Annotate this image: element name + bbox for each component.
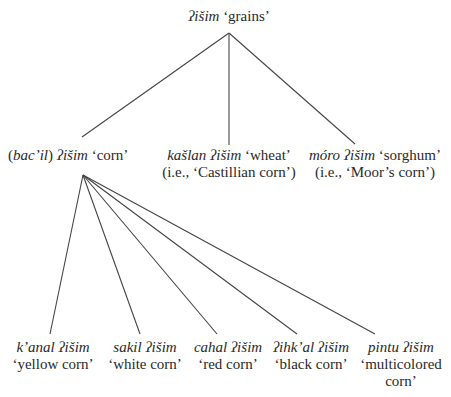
root-gloss: ‘grains’ — [223, 8, 270, 24]
edge-corn-multicolored — [83, 175, 375, 334]
node-wheat: kašlan ʔišim ‘wheat’ (i.e., ‘Castillian … — [150, 147, 308, 181]
corn-gloss: ‘corn’ — [92, 147, 129, 163]
edge-corn-white — [83, 175, 140, 334]
wheat-term-a: kašlan — [167, 147, 206, 163]
sorghum-term: ʔišim — [344, 147, 375, 163]
node-corn: (bac’il) ʔišim ‘corn’ — [8, 147, 158, 164]
multicolored-corn-gloss: ‘multicolored — [356, 356, 446, 373]
tree-edges — [0, 0, 451, 397]
root-term: ʔišim — [188, 8, 219, 24]
sorghum-note: (i.e., ‘Moor’s corn’) — [302, 164, 448, 181]
corn-optional-term: bac’il — [13, 147, 48, 163]
multicolored-corn-gloss-cont: corn’ — [356, 373, 446, 390]
black-corn-gloss: ‘black corn’ — [268, 356, 354, 373]
edge-corn-yellow — [50, 175, 83, 334]
wheat-term: ʔišim — [210, 147, 241, 163]
wheat-note: (i.e., ‘Castillian corn’) — [150, 164, 308, 181]
node-multicolored-corn: pintu ʔišim ‘multicolored corn’ — [356, 339, 446, 390]
edge-grains-corn — [82, 33, 229, 137]
red-corn-gloss: ‘red corn’ — [190, 356, 266, 373]
corn-term: ʔišim — [57, 147, 88, 163]
white-corn-gloss: ‘white corn’ — [104, 356, 186, 373]
yellow-corn-gloss: ‘yellow corn’ — [8, 356, 98, 373]
node-grains: ʔišim ‘grains’ — [170, 8, 288, 25]
edge-corn-black — [83, 175, 297, 334]
sorghum-gloss: ‘sorghum’ — [379, 147, 441, 163]
edge-grains-sorghum — [229, 33, 355, 144]
node-red-corn: cahal ʔišim ‘red corn’ — [190, 339, 266, 373]
wheat-gloss: ‘wheat’ — [245, 147, 291, 163]
node-sorghum: móro ʔišim ‘sorghum’ (i.e., ‘Moor’s corn… — [302, 147, 448, 181]
sorghum-term-a: móro — [309, 147, 340, 163]
node-yellow-corn: k’anal ʔišim ‘yellow corn’ — [8, 339, 98, 373]
node-black-corn: ʔihk’al ʔišim ‘black corn’ — [268, 339, 354, 373]
edge-corn-red — [83, 175, 217, 334]
node-white-corn: sakil ʔišim ‘white corn’ — [104, 339, 186, 373]
